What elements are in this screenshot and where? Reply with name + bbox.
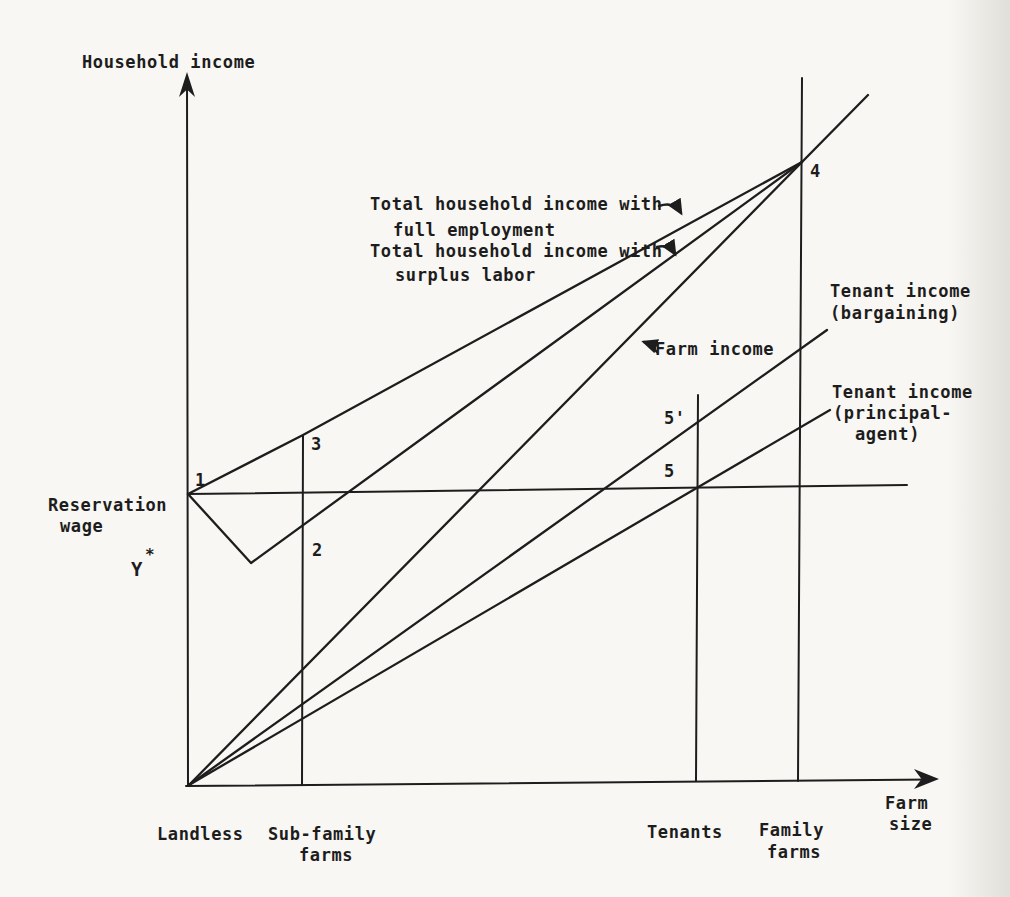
- point-label-5: 5: [664, 461, 675, 481]
- tenant-bargaining-label-line2: (bargaining): [830, 303, 960, 323]
- income-farm-size-diagram: Household income Farm size Reservation w…: [0, 0, 1010, 897]
- point-label-4: 4: [810, 161, 821, 181]
- category-sub-family-line1: Sub-family: [268, 824, 376, 844]
- y-axis-title: Household income: [82, 52, 255, 72]
- point-label-2: 2: [312, 540, 323, 560]
- full-employment-label-line2: full employment: [393, 220, 556, 240]
- sub-family-boundary-line: [302, 435, 303, 785]
- scan-edge-shadow: [948, 0, 1010, 897]
- tenant-principal-agent-income-curve: [189, 410, 830, 785]
- tenant-principal-agent-label-line2: (principal-: [833, 403, 952, 423]
- x-axis-title-line2: size: [889, 814, 932, 834]
- category-tenants: Tenants: [647, 822, 723, 842]
- tenant-principal-agent-label-line3: agent): [855, 424, 920, 444]
- scanned-figure-page: Household income Farm size Reservation w…: [0, 0, 1010, 897]
- y-star-label: Y: [131, 558, 143, 580]
- reservation-wage-label-line1: Reservation: [48, 495, 167, 515]
- surplus-labor-label-line1: Total household income with: [370, 241, 663, 261]
- surplus-labor-label-line2: surplus labor: [395, 265, 536, 285]
- category-sub-family-line2: farms: [299, 845, 353, 865]
- point-label-5-prime: 5': [664, 408, 686, 428]
- tenants-boundary-line: [696, 395, 698, 781]
- reservation-wage-label-line2: wage: [60, 516, 103, 536]
- point-label-3: 3: [311, 434, 322, 454]
- category-family-farms-line2: farms: [767, 842, 821, 862]
- x-axis: [186, 780, 932, 787]
- category-landless: Landless: [157, 824, 244, 844]
- farm-income-label: Farm income: [655, 339, 774, 359]
- tenant-bargaining-label-line1: Tenant income: [830, 281, 971, 301]
- full-employment-label-line1: Total household income with: [370, 194, 663, 214]
- point-label-1: 1: [195, 470, 206, 490]
- x-axis-title-line1: Farm: [885, 793, 928, 813]
- category-family-farms-line1: Family: [759, 820, 824, 840]
- y-star-superscript: *: [145, 545, 155, 564]
- tenant-principal-agent-label-line1: Tenant income: [832, 382, 973, 402]
- tenant-bargaining-income-curve: [189, 330, 827, 785]
- y-axis: [187, 76, 188, 786]
